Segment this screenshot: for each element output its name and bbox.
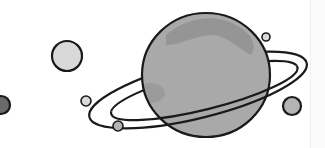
planet-illustration: Ringed planet with moons — [0, 0, 325, 148]
small-moon-below-ring-icon — [113, 121, 123, 131]
large-light-moon-icon — [52, 41, 82, 71]
dark-moon-left-edge-icon — [0, 96, 10, 114]
right-edge-strip — [310, 0, 325, 148]
gray-moon-right-icon — [283, 97, 301, 115]
tiny-moon-top-right-icon — [262, 33, 270, 41]
small-moon-ring-left-icon — [81, 96, 91, 106]
planet-scene-svg — [0, 0, 325, 148]
